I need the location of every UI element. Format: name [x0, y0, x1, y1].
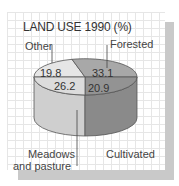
label-cultivated: Cultivated	[106, 148, 155, 161]
value-cultivated: 20.9	[88, 82, 109, 94]
label-forested: Forested	[110, 38, 153, 51]
value-other: 19.8	[40, 67, 61, 79]
value-forested: 33.1	[92, 67, 113, 79]
label-meadows-2: and pasture	[13, 160, 71, 173]
label-other: Other	[25, 40, 53, 53]
value-meadows: 26.2	[54, 80, 75, 92]
